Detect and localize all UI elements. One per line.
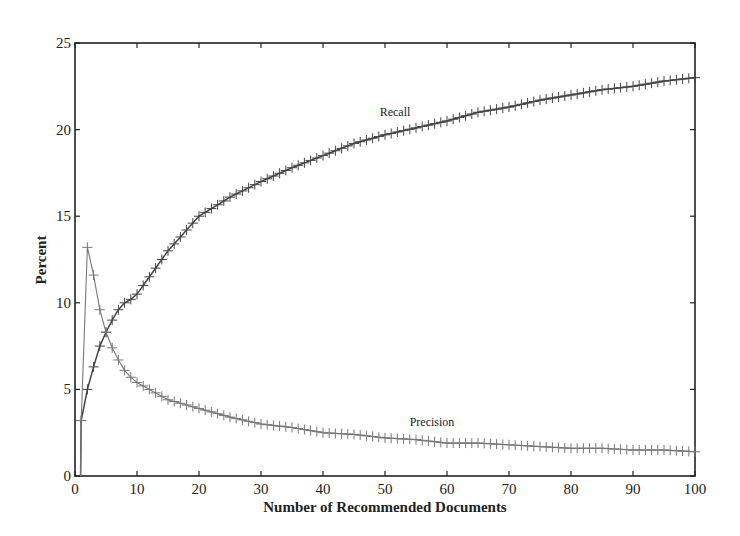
y-tick-label: 10	[56, 295, 71, 311]
plus-marker	[343, 141, 353, 151]
x-tick-label: 100	[684, 481, 707, 497]
plus-marker	[182, 400, 192, 410]
precision-annotation: Precision	[410, 415, 455, 429]
plus-marker	[523, 98, 533, 108]
plus-marker	[89, 362, 99, 372]
plus-marker	[603, 84, 613, 94]
plus-marker	[361, 431, 371, 441]
plus-marker	[647, 78, 657, 88]
plus-marker	[95, 341, 105, 351]
plus-marker	[392, 127, 402, 137]
plus-marker	[355, 430, 365, 440]
plus-marker	[454, 112, 464, 122]
plus-marker	[653, 77, 663, 87]
plus-marker	[237, 415, 247, 425]
plus-marker	[479, 106, 489, 116]
plus-marker	[485, 105, 495, 115]
plus-marker	[312, 427, 322, 437]
plus-marker	[492, 104, 502, 114]
plus-marker	[256, 419, 266, 429]
plus-marker	[275, 168, 285, 178]
series-precision	[76, 242, 700, 476]
plus-marker	[82, 242, 92, 252]
plus-marker	[275, 421, 285, 431]
plus-marker	[144, 272, 154, 282]
series-recall	[76, 73, 700, 476]
x-tick-label: 60	[440, 481, 455, 497]
plus-marker	[423, 120, 433, 130]
plus-marker	[293, 160, 303, 170]
plus-marker	[368, 133, 378, 143]
plus-marker	[95, 305, 105, 315]
plus-marker	[355, 137, 365, 147]
plus-marker	[541, 94, 551, 104]
y-axis-title: Percent	[33, 236, 49, 285]
plus-marker	[659, 76, 669, 86]
x-tick-label: 80	[564, 481, 579, 497]
plus-marker	[690, 73, 700, 83]
plus-marker	[374, 432, 384, 442]
plus-marker	[306, 426, 316, 436]
plus-marker	[113, 355, 123, 365]
x-tick-label: 20	[192, 481, 207, 497]
plus-marker	[560, 91, 570, 101]
y-tick-label: 5	[64, 381, 72, 397]
plus-marker	[411, 123, 421, 133]
plus-marker	[374, 132, 384, 142]
plus-marker	[430, 437, 440, 447]
plus-marker	[268, 171, 278, 181]
plus-marker	[678, 74, 688, 84]
plus-marker	[157, 255, 167, 265]
plus-marker	[175, 398, 185, 408]
plus-marker	[442, 116, 452, 126]
plus-marker	[368, 432, 378, 442]
x-tick-label: 10	[130, 481, 145, 497]
y-tick-label: 20	[56, 122, 71, 138]
plus-marker	[399, 126, 409, 136]
plus-marker	[405, 124, 415, 134]
plus-marker	[591, 86, 601, 96]
plus-marker	[597, 85, 607, 95]
x-tick-label: 90	[626, 481, 641, 497]
plus-marker	[206, 407, 216, 417]
plus-marker	[76, 416, 86, 426]
plus-marker	[281, 165, 291, 175]
plus-marker	[107, 343, 117, 353]
x-tick-label: 40	[316, 481, 331, 497]
plus-marker	[231, 413, 241, 423]
plus-marker	[436, 117, 446, 127]
plus-marker	[510, 101, 520, 111]
plus-marker	[82, 384, 92, 394]
plus-marker	[101, 327, 111, 337]
plus-marker	[554, 92, 564, 102]
plus-marker	[547, 93, 557, 103]
plus-marker	[411, 435, 421, 445]
x-tick-label: 0	[71, 481, 79, 497]
plus-marker	[504, 102, 514, 112]
plus-marker	[225, 412, 235, 422]
plus-marker	[299, 158, 309, 168]
plus-marker	[318, 151, 328, 161]
plus-marker	[628, 81, 638, 91]
x-tick-label: 70	[502, 481, 517, 497]
plus-marker	[287, 163, 297, 173]
plus-marker	[640, 79, 650, 89]
plus-marker	[386, 128, 396, 138]
plus-marker	[349, 429, 359, 439]
plus-marker	[461, 111, 471, 121]
plus-marker	[634, 80, 644, 90]
plus-marker	[572, 89, 582, 99]
plus-marker	[194, 403, 204, 413]
plus-marker	[306, 155, 316, 165]
plus-marker	[281, 422, 291, 432]
plus-marker	[361, 135, 371, 145]
plus-marker	[330, 146, 340, 156]
plus-marker	[287, 423, 297, 433]
plus-marker	[151, 263, 161, 273]
plus-marker	[138, 280, 148, 290]
plus-marker	[436, 437, 446, 447]
plus-marker	[516, 99, 526, 109]
plus-marker	[671, 75, 681, 85]
plus-marker	[430, 119, 440, 129]
plus-marker	[622, 82, 632, 92]
